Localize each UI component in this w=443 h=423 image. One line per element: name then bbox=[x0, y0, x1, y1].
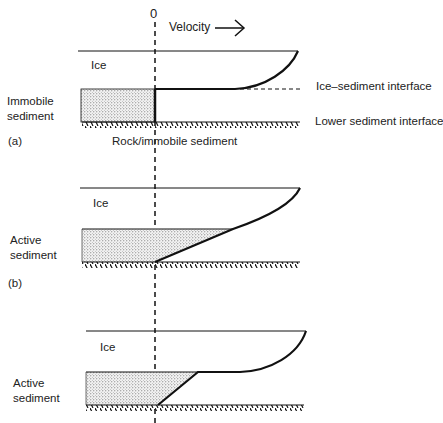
panel-a-sediment-label: Immobile sediment bbox=[7, 94, 77, 124]
panel-c bbox=[86, 331, 306, 411]
panel-c-ice-label: Ice bbox=[100, 340, 115, 355]
panel-b-id: (b) bbox=[8, 276, 22, 291]
velocity-label: Velocity bbox=[169, 20, 210, 35]
panel-b-sediment-label: Active sediment bbox=[10, 233, 80, 263]
lower-interface-label: Lower sediment interface bbox=[315, 114, 443, 129]
panel-a-ice-label: Ice bbox=[91, 58, 106, 73]
velocity-arrow-icon bbox=[215, 20, 244, 36]
bed-label: Rock/immobile sediment bbox=[112, 134, 237, 149]
panel-a-id: (a) bbox=[8, 134, 22, 149]
panel-c-sediment-label: Active sediment bbox=[13, 376, 83, 406]
panel-b-ice-label: Ice bbox=[93, 196, 108, 211]
zero-label: 0 bbox=[150, 6, 157, 21]
interface-label: Ice–sediment interface bbox=[316, 79, 432, 94]
panel-b bbox=[80, 188, 300, 268]
panel-a bbox=[78, 51, 300, 128]
